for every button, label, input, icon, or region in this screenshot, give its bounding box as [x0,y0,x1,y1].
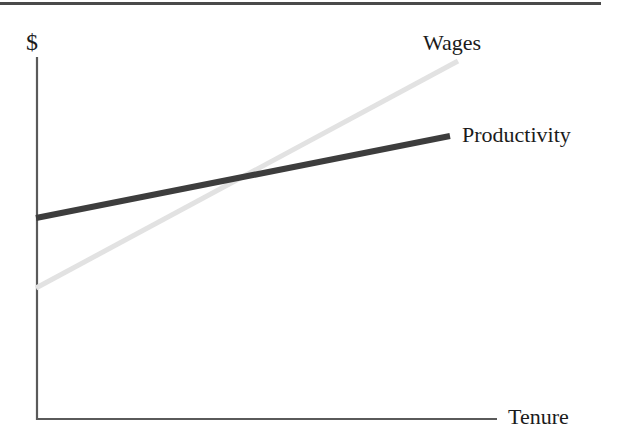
series-line-productivity [36,136,450,218]
chart-figure: $ Tenure Wages Productivity [0,0,618,439]
chart-plot-area [0,0,618,439]
x-axis-label: Tenure [508,404,569,430]
y-axis-label: $ [26,28,38,56]
series-label-wages: Wages [423,30,481,56]
series-label-productivity: Productivity [462,122,571,148]
